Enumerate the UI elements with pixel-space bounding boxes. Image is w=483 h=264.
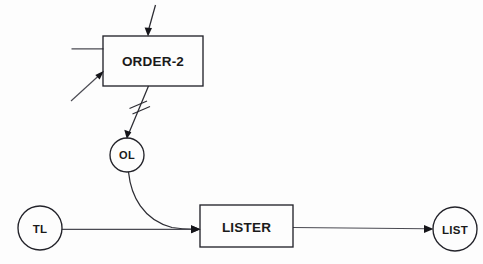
edge-left-diagonal-line	[71, 75, 100, 101]
edge-ol-to-lister	[129, 172, 201, 233]
edge-ol-to-lister-curve	[129, 172, 195, 229]
edge-order2-to-ol-line	[129, 86, 149, 134]
node-order2-label: ORDER-2	[122, 54, 184, 69]
node-list-label: LIST	[442, 224, 468, 236]
node-list[interactable]: LIST	[433, 207, 477, 251]
edge-lister-to-list-line	[293, 228, 427, 229]
node-lister[interactable]: LISTER	[200, 205, 293, 247]
arrow-head-tl-lister	[191, 225, 201, 233]
diagram-canvas: ORDER-2 OL TL LISTER LIST	[0, 0, 483, 264]
edge-tl-to-lister	[62, 225, 201, 233]
node-ol[interactable]: OL	[110, 138, 144, 172]
arrow-head-list	[424, 225, 434, 233]
edge-top-into-order2-line	[149, 5, 156, 30]
node-tl-label: TL	[33, 223, 48, 235]
edge-left-diagonal-into-order2	[71, 71, 104, 101]
tick-mark-2	[133, 107, 151, 115]
diagram-svg: ORDER-2 OL TL LISTER LIST	[0, 0, 483, 264]
arrow-head-top-order2	[145, 28, 152, 37]
node-lister-label: LISTER	[222, 220, 271, 235]
edge-lister-to-list	[293, 225, 434, 233]
node-order2[interactable]: ORDER-2	[103, 36, 203, 86]
node-tl[interactable]: TL	[18, 206, 62, 250]
edge-top-into-order2	[145, 5, 156, 37]
tick-mark-1	[130, 101, 148, 109]
edge-order2-to-ol	[124, 86, 150, 139]
node-ol-label: OL	[119, 149, 135, 161]
